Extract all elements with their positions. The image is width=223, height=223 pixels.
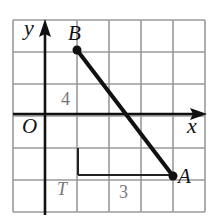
x-axis-label: x <box>186 113 197 138</box>
vertical-leg-label: 4 <box>61 89 70 109</box>
point-a <box>169 172 178 181</box>
point-a-label: A <box>176 164 191 188</box>
coordinate-diagram: y x O B A T 4 3 <box>0 0 223 223</box>
point-b-label: B <box>68 21 81 45</box>
origin-label: O <box>22 114 37 138</box>
vertex-t-label: T <box>57 179 69 199</box>
y-axis-label: y <box>22 15 34 40</box>
axes <box>13 28 198 215</box>
grid <box>13 20 205 212</box>
point-b <box>73 46 82 55</box>
helper-legs <box>78 148 173 175</box>
horizontal-leg-label: 3 <box>119 182 128 202</box>
